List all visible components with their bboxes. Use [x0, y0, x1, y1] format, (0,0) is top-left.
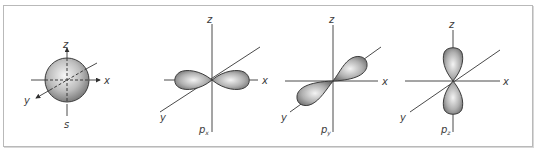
py-lobe-back [333, 56, 367, 81]
y-axis-label: y [23, 95, 31, 106]
pz-lobe-lower [443, 81, 462, 114]
panel-py-orbital: z x y py [280, 14, 388, 137]
panel-s-orbital: z x y s [23, 39, 110, 130]
panel-px-orbital: z x y px [159, 14, 268, 136]
z-axis-label: z [206, 14, 213, 25]
y-axis-label: y [159, 112, 167, 123]
x-axis-label: x [103, 75, 110, 86]
orbital-diagram: z x y s z x y px z x y py z x y pz [0, 0, 537, 153]
x-axis-label: x [502, 76, 509, 87]
orbital-label-s: s [64, 119, 69, 130]
y-axis-arrow [36, 90, 50, 98]
z-axis-label: z [328, 14, 335, 25]
orbital-label-px: px [198, 124, 209, 136]
y-axis-tail [86, 63, 97, 69]
orbital-label-py: py [320, 124, 331, 137]
x-axis-label: x [261, 75, 268, 86]
z-axis-label: z [448, 19, 455, 30]
panel-pz-orbital: z x y pz [399, 19, 509, 136]
orbital-label-pz: pz [440, 124, 451, 136]
x-axis-label: x [381, 76, 388, 87]
pz-lobe-upper [443, 48, 462, 81]
px-lobe-positive [212, 71, 249, 90]
y-axis-label: y [280, 112, 288, 123]
py-lobe-front [297, 81, 333, 106]
y-axis-label: y [399, 112, 407, 123]
px-lobe-negative [175, 71, 212, 90]
z-axis-label: z [62, 39, 69, 50]
